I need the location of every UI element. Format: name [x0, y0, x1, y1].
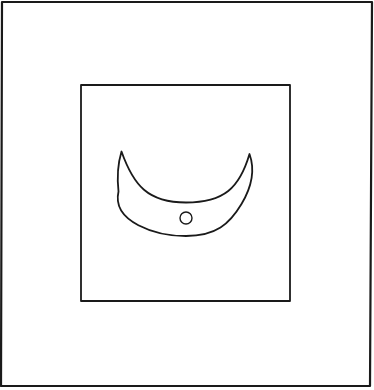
background	[0, 0, 374, 390]
figure-canvas	[0, 0, 374, 390]
